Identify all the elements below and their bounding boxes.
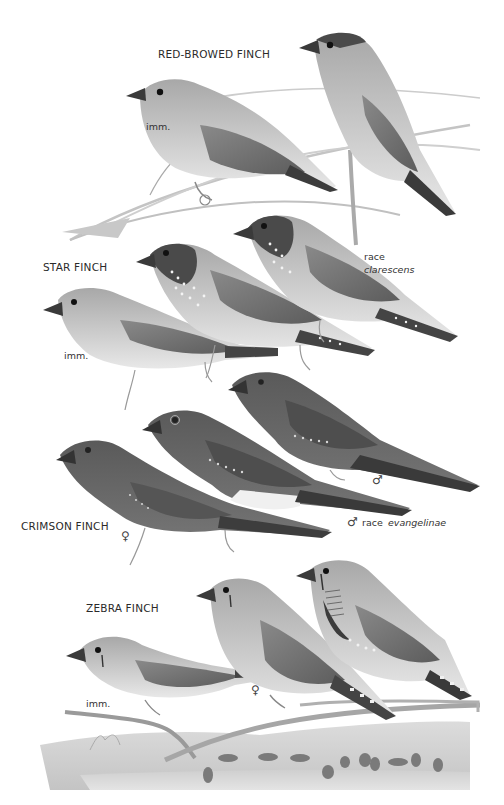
red-browed-finch-imm-label: imm. — [146, 122, 170, 132]
red-browed-finch-group — [62, 33, 480, 245]
species-label-star-finch: STAR FINCH — [43, 262, 107, 273]
zebra-finch-imm-label: imm. — [86, 699, 110, 709]
star-finch-imm-label: imm. — [64, 351, 88, 361]
star-finch-race-label: race — [364, 252, 385, 262]
crimson-finch-race-prefix: race — [362, 518, 383, 528]
star-finch-race-name: clarescens — [364, 265, 414, 275]
species-label-zebra-finch: ZEBRA FINCH — [86, 603, 159, 614]
zebra-finch-group — [40, 560, 480, 790]
crimson-finch-race-name: evangelinae — [388, 518, 446, 528]
species-label-red-browed-finch: RED-BROWED FINCH — [158, 49, 270, 60]
crimson-finch-female-symbol: ♀ — [121, 530, 130, 542]
species-label-crimson-finch: CRIMSON FINCH — [21, 521, 109, 532]
crimson-finch-group — [56, 372, 480, 565]
crimson-finch-male-symbol: ♂ — [372, 474, 383, 486]
zebra-finch-female-symbol: ♀ — [251, 684, 260, 696]
crimson-finch-evangelinae-male-symbol: ♂ — [347, 516, 358, 528]
red-browed-finch-immature — [126, 79, 338, 205]
